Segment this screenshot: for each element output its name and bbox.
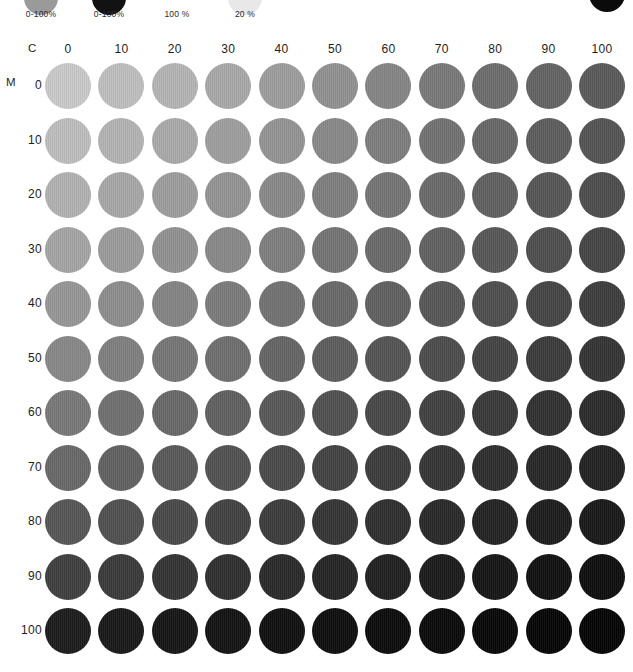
row-header-50: 50 (0, 351, 42, 365)
patch-row (0, 389, 633, 443)
patch-c100-m10 (579, 118, 625, 164)
patch-c70-m40 (419, 281, 465, 327)
patch-c30-m80 (205, 499, 251, 545)
patch-c80-m70 (472, 445, 518, 491)
patch-c0-m50 (45, 336, 91, 382)
patch-c10-m10 (98, 118, 144, 164)
patch-c100-m0 (579, 63, 625, 109)
patch-c20-m0 (152, 63, 198, 109)
patch-c50-m10 (312, 118, 358, 164)
patch-c100-m60 (579, 390, 625, 436)
row-header-80: 80 (0, 514, 42, 528)
patch-c60-m50 (365, 336, 411, 382)
column-header-40: 40 (255, 42, 309, 56)
patch-c90-m0 (526, 63, 572, 109)
legend-label: 0-100% (78, 9, 140, 19)
patch-c10-m60 (98, 390, 144, 436)
legend-label: 0-100% (10, 9, 72, 19)
patch-c30-m30 (205, 227, 251, 273)
patch-c20-m20 (152, 172, 198, 218)
patch-c70-m30 (419, 227, 465, 273)
patch-c80-m20 (472, 172, 518, 218)
patch-c100-m100 (579, 608, 625, 654)
patch-c70-m80 (419, 499, 465, 545)
patch-c100-m30 (579, 227, 625, 273)
patch-row (0, 62, 633, 116)
patch-row (0, 280, 633, 334)
column-header-10: 10 (94, 42, 148, 56)
row-header-0: 0 (0, 78, 42, 92)
patch-c20-m40 (152, 281, 198, 327)
column-header-100: 100 (575, 42, 629, 56)
patch-c80-m80 (472, 499, 518, 545)
patch-c90-m40 (526, 281, 572, 327)
patch-c100-m80 (579, 499, 625, 545)
patch-c90-m90 (526, 554, 572, 600)
patch-c70-m90 (419, 554, 465, 600)
patch-c10-m40 (98, 281, 144, 327)
patch-c0-m0 (45, 63, 91, 109)
patch-c100-m50 (579, 336, 625, 382)
legend-label: 100 % (146, 9, 208, 19)
row-header-10: 10 (0, 133, 42, 147)
patch-c20-m50 (152, 336, 198, 382)
patch-c0-m60 (45, 390, 91, 436)
legend-strip: 0-100% 0-100% 100 % 20 % (0, 0, 633, 36)
patch-c50-m40 (312, 281, 358, 327)
patch-c40-m40 (259, 281, 305, 327)
patch-c90-m30 (526, 227, 572, 273)
patch-c30-m60 (205, 390, 251, 436)
patch-row (0, 444, 633, 498)
row-header-90: 90 (0, 569, 42, 583)
patch-c100-m40 (579, 281, 625, 327)
patch-c100-m70 (579, 445, 625, 491)
column-header-0: 0 (41, 42, 95, 56)
patch-c10-m30 (98, 227, 144, 273)
patch-c10-m80 (98, 499, 144, 545)
patch-c10-m0 (98, 63, 144, 109)
patch-c30-m40 (205, 281, 251, 327)
patch-c10-m70 (98, 445, 144, 491)
patch-c80-m100 (472, 608, 518, 654)
patch-c60-m60 (365, 390, 411, 436)
patch-c40-m70 (259, 445, 305, 491)
patch-c50-m0 (312, 63, 358, 109)
patch-c60-m100 (365, 608, 411, 654)
patch-c30-m0 (205, 63, 251, 109)
patch-c80-m60 (472, 390, 518, 436)
patch-c10-m50 (98, 336, 144, 382)
patch-grid (0, 62, 633, 672)
patch-c0-m90 (45, 554, 91, 600)
patch-c60-m90 (365, 554, 411, 600)
patch-c70-m100 (419, 608, 465, 654)
legend-item: 0-100% (78, 0, 140, 34)
column-header-50: 50 (308, 42, 362, 56)
column-header-row: C 0102030405060708090100 (0, 40, 633, 60)
patch-c60-m80 (365, 499, 411, 545)
patch-c80-m30 (472, 227, 518, 273)
patch-c50-m70 (312, 445, 358, 491)
patch-c0-m20 (45, 172, 91, 218)
patch-c0-m100 (45, 608, 91, 654)
column-header-60: 60 (361, 42, 415, 56)
patch-c50-m100 (312, 608, 358, 654)
patch-c70-m50 (419, 336, 465, 382)
patch-c20-m60 (152, 390, 198, 436)
row-header-20: 20 (0, 187, 42, 201)
patch-c30-m50 (205, 336, 251, 382)
patch-c20-m100 (152, 608, 198, 654)
column-header-20: 20 (148, 42, 202, 56)
patch-c0-m30 (45, 227, 91, 273)
patch-c90-m60 (526, 390, 572, 436)
patch-c90-m80 (526, 499, 572, 545)
patch-c80-m40 (472, 281, 518, 327)
patch-c10-m20 (98, 172, 144, 218)
patch-row (0, 226, 633, 280)
patch-c50-m30 (312, 227, 358, 273)
patch-row (0, 553, 633, 607)
column-header-80: 80 (468, 42, 522, 56)
patch-c20-m30 (152, 227, 198, 273)
patch-c30-m10 (205, 118, 251, 164)
patch-c40-m10 (259, 118, 305, 164)
patch-c100-m20 (579, 172, 625, 218)
